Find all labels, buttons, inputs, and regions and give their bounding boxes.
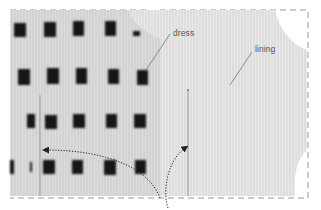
fabric-diagram [0,0,321,210]
dress-label: dress [173,28,194,38]
sewing-illustration: dress lining [0,0,321,210]
lining-label: lining [255,44,275,54]
